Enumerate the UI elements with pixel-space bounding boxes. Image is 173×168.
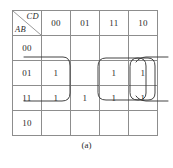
kmap-cell-r10-c00[interactable] bbox=[42, 111, 71, 136]
kmap-grid-container: CD AB 00 01 11 10 00 01 bbox=[12, 10, 152, 130]
col-variable-label: CD bbox=[27, 11, 39, 22]
kmap-cell-r00-c00[interactable] bbox=[42, 36, 71, 61]
kmap-cell-r01-c01[interactable] bbox=[71, 61, 100, 86]
kmap-cell-r00-c11[interactable] bbox=[100, 36, 129, 61]
kmap-cell-r11-c00[interactable]: 1 bbox=[42, 86, 71, 111]
column-header-11: 11 bbox=[100, 11, 129, 36]
kmap-figure: CD AB 00 01 11 10 00 01 bbox=[0, 0, 173, 168]
kmap-cell-r10-c01[interactable] bbox=[71, 111, 100, 136]
row-header-00: 00 bbox=[13, 36, 42, 61]
kmap-row-11: 11 1 1 1 1 bbox=[13, 86, 158, 111]
row-header-10: 10 bbox=[13, 111, 42, 136]
kmap-cell-r00-c01[interactable] bbox=[71, 36, 100, 61]
kmap-cell-r01-c10[interactable]: 1 bbox=[129, 61, 158, 86]
kmap-cell-r11-c10[interactable]: 1 bbox=[129, 86, 158, 111]
row-variable-label: AB bbox=[15, 24, 26, 35]
kmap-cell-r11-c01[interactable]: 1 bbox=[71, 86, 100, 111]
kmap-cell-r10-c10[interactable] bbox=[129, 111, 158, 136]
kmap-row-00: 00 bbox=[13, 36, 158, 61]
kmap-header-row: CD AB 00 01 11 10 bbox=[13, 11, 158, 36]
column-header-10: 10 bbox=[129, 11, 158, 36]
kmap-cell-r00-c10[interactable] bbox=[129, 36, 158, 61]
row-header-11: 11 bbox=[13, 86, 42, 111]
kmap-table: CD AB 00 01 11 10 00 01 bbox=[12, 10, 158, 136]
kmap-cell-r01-c11[interactable]: 1 bbox=[100, 61, 129, 86]
row-header-01: 01 bbox=[13, 61, 42, 86]
kmap-cell-r10-c11[interactable] bbox=[100, 111, 129, 136]
kmap-row-01: 01 1 1 1 bbox=[13, 61, 158, 86]
kmap-corner-cell: CD AB bbox=[13, 11, 42, 36]
column-header-00: 00 bbox=[42, 11, 71, 36]
kmap-cell-r01-c00[interactable]: 1 bbox=[42, 61, 71, 86]
column-header-01: 01 bbox=[71, 11, 100, 36]
figure-caption: (a) bbox=[0, 140, 173, 150]
kmap-cell-r11-c11[interactable]: 1 bbox=[100, 86, 129, 111]
kmap-row-10: 10 bbox=[13, 111, 158, 136]
